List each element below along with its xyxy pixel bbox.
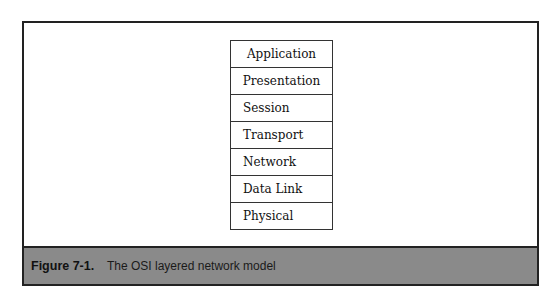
figure-caption: The OSI layered network model xyxy=(107,259,276,273)
osi-layer-stack: Application Presentation Session Transpo… xyxy=(230,40,333,230)
figure-caption-bar: Figure 7-1. The OSI layered network mode… xyxy=(24,246,537,284)
figure-frame: Application Presentation Session Transpo… xyxy=(22,21,539,286)
layer-presentation: Presentation xyxy=(231,67,332,94)
figure-number: Figure 7-1. xyxy=(31,259,107,273)
layer-data-link: Data Link xyxy=(231,175,332,202)
layer-application: Application xyxy=(231,41,332,67)
layer-network: Network xyxy=(231,148,332,175)
layer-physical: Physical xyxy=(231,202,332,229)
layer-session: Session xyxy=(231,94,332,121)
layer-transport: Transport xyxy=(231,121,332,148)
